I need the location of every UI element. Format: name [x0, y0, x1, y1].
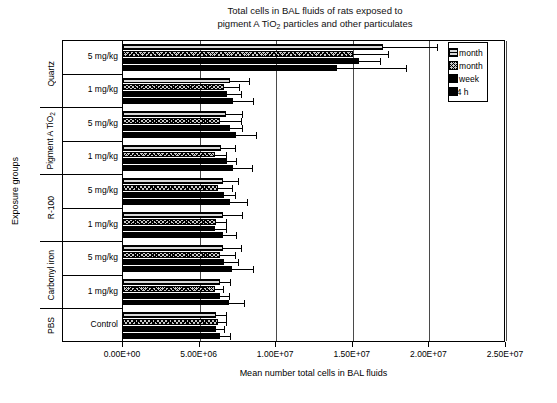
error-bar-cap: [238, 178, 239, 185]
error-bar-cap: [235, 252, 236, 259]
error-bar: [230, 128, 242, 129]
x-axis-tick: [199, 342, 200, 347]
bar: [123, 199, 230, 205]
bar: [123, 91, 227, 97]
error-bar: [233, 101, 253, 102]
error-bar-cap: [224, 326, 225, 333]
chart-title-line2-pre: pigment A TiO: [217, 18, 276, 29]
row-separator: [62, 74, 122, 75]
group-label: R-100: [40, 174, 62, 241]
error-bar: [232, 269, 253, 270]
error-bar-cap: [249, 78, 250, 85]
error-bar-cap: [229, 293, 230, 300]
error-bar-cap: [242, 212, 243, 219]
error-bar-cap: [236, 158, 237, 165]
bar: [123, 226, 215, 232]
bar: [123, 266, 232, 272]
error-bar: [218, 322, 226, 323]
group-label: Carbonyl iron: [40, 241, 62, 308]
x-axis-tick-label: 1.50E+07: [317, 349, 387, 359]
error-bar-cap: [230, 333, 231, 340]
bar: [123, 58, 359, 64]
x-axis-tick: [275, 342, 276, 347]
bar: [123, 111, 226, 117]
error-bar: [227, 94, 241, 95]
error-bar-cap: [236, 232, 237, 239]
bar: [123, 319, 218, 325]
bar: [123, 232, 223, 238]
error-bar: [226, 114, 243, 115]
bar: [123, 245, 223, 251]
bar: [123, 125, 230, 131]
error-bar-cap: [241, 91, 242, 98]
bar: [123, 192, 224, 198]
row-label: Control: [62, 319, 118, 329]
bar: [123, 333, 220, 339]
bar: [123, 118, 220, 124]
error-bar: [224, 195, 235, 196]
legend-item: 24 h: [452, 85, 483, 98]
bar: [123, 132, 236, 138]
chart-title-line1: Total cells in BAL fluids of rats expose…: [228, 5, 403, 16]
row-separator: [62, 141, 122, 142]
error-bar: [220, 336, 231, 337]
error-bar: [359, 61, 380, 62]
bar: [123, 300, 229, 306]
chart-title: Total cells in BAL fluids of rats expose…: [150, 4, 480, 31]
error-bar: [221, 148, 235, 149]
row-label: 1 mg/kg: [62, 219, 118, 229]
x-axis-tick: [352, 342, 353, 347]
error-bar: [220, 255, 235, 256]
error-bar-cap: [380, 58, 381, 65]
error-bar-cap: [253, 98, 254, 105]
error-bar-cap: [235, 192, 236, 199]
error-bar-cap: [437, 44, 438, 51]
row-label: 5 mg/kg: [62, 51, 118, 61]
bar: [123, 84, 224, 90]
error-bar: [218, 188, 232, 189]
row-label: 5 mg/kg: [62, 185, 118, 195]
legend: 3 month1 month1 week24 h: [448, 42, 488, 102]
bar: [123, 145, 221, 151]
error-bar: [216, 222, 225, 223]
gridline: [353, 41, 354, 341]
error-bar-cap: [223, 286, 224, 293]
x-axis-tick-label: 0.00E+00: [87, 349, 157, 359]
error-bar: [230, 81, 248, 82]
error-bar: [233, 168, 251, 169]
error-bar: [224, 87, 239, 88]
group-label: Pigment A TiO2: [40, 107, 62, 174]
chart-title-subscript: 2: [277, 23, 281, 30]
row-label: 1 mg/kg: [62, 84, 118, 94]
legend-swatch-horizontal-lines-icon: [449, 48, 458, 57]
error-bar-cap: [226, 152, 227, 159]
x-axis-tick-label: 2.00E+07: [393, 349, 463, 359]
bar: [123, 158, 227, 164]
group-label: Quartz: [40, 40, 62, 107]
y-axis-title: Exposure groups: [6, 40, 24, 342]
x-axis-tick-label: 5.00E+06: [164, 349, 234, 359]
legend-item: 3 month: [452, 46, 483, 59]
error-bar: [227, 161, 236, 162]
error-bar: [215, 289, 223, 290]
x-axis-tick: [505, 342, 506, 347]
error-bar: [229, 303, 244, 304]
bar: [123, 178, 223, 184]
error-bar: [337, 68, 406, 69]
error-bar-cap: [253, 266, 254, 273]
bar: [123, 165, 233, 171]
error-bar: [215, 155, 226, 156]
row-label: 1 mg/kg: [62, 151, 118, 161]
error-bar-cap: [244, 300, 245, 307]
bar: [123, 219, 216, 225]
row-label: 1 mg/kg: [62, 286, 118, 296]
error-bar: [230, 202, 247, 203]
x-axis-tick-label: 1.00E+07: [240, 349, 310, 359]
error-bar-cap: [247, 199, 248, 206]
bar: [123, 51, 353, 57]
legend-swatch-solid-black-icon: [449, 74, 458, 83]
error-bar: [220, 296, 229, 297]
error-bar: [223, 181, 238, 182]
error-bar: [220, 282, 231, 283]
chart-root: Total cells in BAL fluids of rats expose…: [0, 0, 557, 403]
